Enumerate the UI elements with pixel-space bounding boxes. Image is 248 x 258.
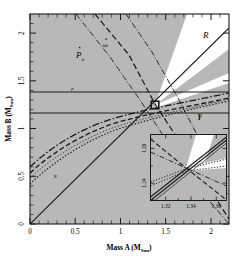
y-tick-label: 2 [18, 31, 26, 35]
x-tick-label: 0 [28, 228, 32, 236]
main-plot: 0 0.5 1 1.5 2 0 0.5 1 1.5 2 Mass A (MSun… [4, 14, 229, 253]
y-tick-label: 0 [18, 222, 26, 226]
x-tick-label: 1.5 [161, 228, 170, 236]
inset-x-tick-label: 1.36 [212, 203, 222, 209]
curve-label-R: R [202, 30, 209, 40]
y-tick-label: 1 [18, 126, 26, 130]
mass-mass-figure: 0 0.5 1 1.5 2 0 0.5 1 1.5 2 Mass A (MSun… [0, 0, 248, 258]
inset-x-tick-labels: 1.32 1.34 1.36 [161, 203, 221, 209]
plot-svg: 0 0.5 1 1.5 2 0 0.5 1 1.5 2 Mass A (MSun… [0, 0, 248, 258]
inset-x-tick-label: 1.32 [161, 203, 171, 209]
inset-y-tick-label: 1.28 [141, 143, 147, 153]
y-tick-label: 1.5 [18, 76, 26, 85]
x-tick-label: 1 [119, 228, 123, 236]
y-minor-ticks [30, 24, 34, 215]
x-tick-label: 2 [209, 228, 213, 236]
inset-plot: 1.32 1.34 1.36 1.24 1.28 [141, 135, 227, 210]
curve-label-gamma: γ [198, 110, 202, 120]
pbdot-overdot-icon [79, 47, 81, 49]
curve-label-omegadot-text: ω [103, 41, 108, 49]
curve-label-s: s [54, 172, 57, 180]
omegadot-overdot-icon [105, 38, 107, 40]
inset-y-tick-label: 1.24 [141, 178, 147, 188]
x-tick-label: 0.5 [71, 228, 80, 236]
curve-label-r: r [71, 85, 74, 93]
y-tick-label: 0.5 [18, 171, 26, 180]
inset-x-tick-label: 1.34 [186, 203, 196, 209]
